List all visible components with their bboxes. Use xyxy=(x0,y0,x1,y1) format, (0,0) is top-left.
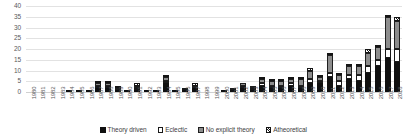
legend-item[interactable]: Atheoretical xyxy=(266,127,307,134)
x-axis-tick: 1992 xyxy=(142,93,152,119)
stacked-bar-chart: 4035302520151050 19801981198219831984198… xyxy=(0,0,407,138)
bar-group[interactable] xyxy=(84,6,94,92)
bar-group[interactable] xyxy=(36,6,46,92)
x-axis-tick: 2017 xyxy=(383,93,393,119)
legend-item-label: No explicit theory xyxy=(206,127,255,134)
x-axis-tick: 2001 xyxy=(228,93,238,119)
bar-segment xyxy=(307,71,313,80)
x-axis-tick: 2013 xyxy=(344,93,354,119)
x-axis-tick: 2000 xyxy=(219,93,229,119)
y-axis-tick-label: 10 xyxy=(14,67,21,74)
y-axis-tick-label: 5 xyxy=(17,78,21,85)
x-axis-tick: 1980 xyxy=(26,93,36,119)
x-axis-tick: 2007 xyxy=(286,93,296,119)
bar-group[interactable] xyxy=(132,6,142,92)
x-axis-tick: 2003 xyxy=(248,93,258,119)
bar-group[interactable] xyxy=(363,6,373,92)
bar-group[interactable] xyxy=(209,6,219,92)
legend-item[interactable]: No explicit theory xyxy=(198,127,254,134)
x-axis-tick: 1997 xyxy=(190,93,200,119)
bar-group[interactable] xyxy=(93,6,103,92)
legend-swatch-icon xyxy=(100,127,106,133)
bar-segment xyxy=(365,53,371,66)
bar-group[interactable] xyxy=(267,6,277,92)
x-axis-tick: 2009 xyxy=(306,93,316,119)
x-axis-tick: 1990 xyxy=(122,93,132,119)
bar-group[interactable] xyxy=(142,6,152,92)
x-axis-tick: 1988 xyxy=(103,93,113,119)
bar-stack xyxy=(375,45,381,92)
legend-swatch-icon xyxy=(266,127,272,133)
x-axis: 1980198119821983198419851986198719881989… xyxy=(26,93,402,119)
bar-stack xyxy=(394,17,400,92)
bar-group[interactable] xyxy=(74,6,84,92)
bar-group[interactable] xyxy=(171,6,181,92)
y-axis-tick-label: 25 xyxy=(14,35,21,42)
y-axis-tick-label: 20 xyxy=(14,46,21,53)
bar-group[interactable] xyxy=(113,6,123,92)
bar-segment xyxy=(327,55,333,72)
bar-group[interactable] xyxy=(296,6,306,92)
x-axis-tick: 1999 xyxy=(209,93,219,119)
bar-group[interactable] xyxy=(277,6,287,92)
legend-item-label: Theory driven xyxy=(108,127,147,134)
bar-group[interactable] xyxy=(45,6,55,92)
x-axis-tick: 2014 xyxy=(354,93,364,119)
x-axis-tick: 1981 xyxy=(36,93,46,119)
bar-group[interactable] xyxy=(286,6,296,92)
bar-group[interactable] xyxy=(248,6,258,92)
legend-swatch-icon xyxy=(158,127,164,133)
x-axis-tick: 1996 xyxy=(180,93,190,119)
bar-group[interactable] xyxy=(151,6,161,92)
x-axis-tick: 1995 xyxy=(171,93,181,119)
bar-group[interactable] xyxy=(306,6,316,92)
x-axis-tick: 2015 xyxy=(363,93,373,119)
bar-group[interactable] xyxy=(190,6,200,92)
x-axis-tick: 2011 xyxy=(325,93,335,119)
bar-group[interactable] xyxy=(238,6,248,92)
bar-group[interactable] xyxy=(335,6,345,92)
bar-group[interactable] xyxy=(257,6,267,92)
plot-area xyxy=(26,6,402,92)
x-axis-tick: 2012 xyxy=(335,93,345,119)
bar-group[interactable] xyxy=(122,6,132,92)
x-axis-tick: 1989 xyxy=(113,93,123,119)
bar-group[interactable] xyxy=(315,6,325,92)
x-axis-tick: 2006 xyxy=(277,93,287,119)
bar-group[interactable] xyxy=(219,6,229,92)
x-axis-tick: 1991 xyxy=(132,93,142,119)
y-axis-tick-label: 35 xyxy=(14,14,21,21)
bar-segment xyxy=(394,21,400,49)
bar-group[interactable] xyxy=(200,6,210,92)
bar-group[interactable] xyxy=(344,6,354,92)
x-axis-tick-label: 2018 xyxy=(397,87,403,100)
bar-group[interactable] xyxy=(383,6,393,92)
x-axis-tick: 1998 xyxy=(200,93,210,119)
bar-segment xyxy=(385,49,391,58)
bar-group[interactable] xyxy=(228,6,238,92)
bar-group[interactable] xyxy=(26,6,36,92)
x-axis-tick: 1982 xyxy=(45,93,55,119)
bar-segment xyxy=(385,17,391,49)
x-axis-tick: 2010 xyxy=(315,93,325,119)
bar-group[interactable] xyxy=(180,6,190,92)
legend-item[interactable]: Theory driven xyxy=(100,127,147,134)
bar-segment xyxy=(356,66,362,75)
legend-item-label: Atheoretical xyxy=(273,127,307,134)
bar-group[interactable] xyxy=(354,6,364,92)
legend-item[interactable]: Eclectic xyxy=(158,127,188,134)
bar-group[interactable] xyxy=(55,6,65,92)
bar-group[interactable] xyxy=(373,6,383,92)
bar-group[interactable] xyxy=(325,6,335,92)
bar-stack xyxy=(385,15,391,92)
x-axis-tick: 2016 xyxy=(373,93,383,119)
bar-segment xyxy=(394,49,400,62)
bar-series-group xyxy=(26,6,402,92)
x-axis-tick: 2018 xyxy=(392,93,402,119)
bar-group[interactable] xyxy=(103,6,113,92)
bar-group[interactable] xyxy=(392,6,402,92)
bar-group[interactable] xyxy=(65,6,75,92)
x-axis-tick: 1987 xyxy=(93,93,103,119)
x-axis-tick: 2004 xyxy=(257,93,267,119)
bar-group[interactable] xyxy=(161,6,171,92)
